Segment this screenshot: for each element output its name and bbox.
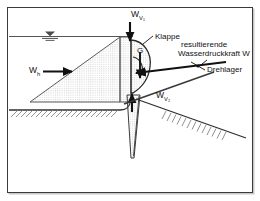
klappe-leader-line [143,36,153,44]
diagram-canvas [0,0,260,201]
pressure-triangle [30,37,120,102]
sloped-bed-hatching [162,111,226,140]
label-wv1: WV₁ [131,10,145,19]
label-drehlager: Drehlager [207,66,242,74]
label-wv2: WV₂ [156,91,170,100]
label-klappe: Klappe [155,33,180,41]
label-resultant-line2: Wasserdruckkraft W [178,50,250,58]
ground-hatching [11,110,118,117]
figure-root: WV₁ G Klappe resultierende Wasserdruckkr… [0,0,260,201]
label-wv2-subscript: V₂ [164,96,170,102]
label-wv1-base: W [131,9,139,19]
label-wh-base: W [29,65,37,75]
pier-wall [120,37,131,102]
label-wh: Wh [29,66,40,75]
sloped-bed-line [136,99,246,138]
label-wh-subscript: h [37,71,40,77]
label-wv2-base: W [156,90,164,100]
label-wv1-subscript: V₁ [139,15,145,21]
label-weight-g: G [137,47,143,55]
water-level-symbol [42,32,58,41]
